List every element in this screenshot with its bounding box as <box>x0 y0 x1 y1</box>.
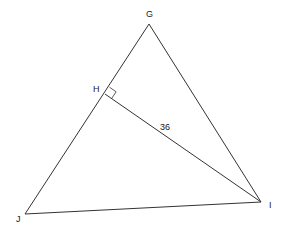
triangle-diagram: G H J I 36 <box>0 0 286 233</box>
segment-hi <box>105 94 261 202</box>
segment-ji <box>25 202 261 214</box>
measure-hi: 36 <box>160 122 170 132</box>
label-h: H <box>93 84 100 94</box>
segment-gi <box>149 24 261 202</box>
label-i: I <box>269 200 272 210</box>
segment-gj <box>25 24 149 214</box>
label-g: G <box>146 9 153 19</box>
right-angle-marker-icon <box>110 87 117 98</box>
label-j: J <box>16 214 21 224</box>
